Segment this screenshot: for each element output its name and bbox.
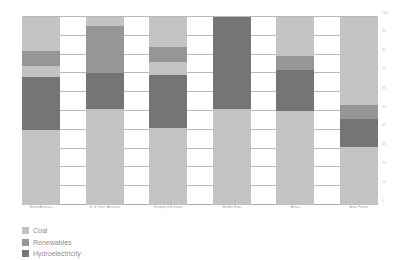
y-axis-tick-label: 60 <box>382 87 386 90</box>
bar-group[interactable] <box>86 17 124 205</box>
x-axis-tick-label: Middle East <box>213 206 251 216</box>
bar-segment[interactable] <box>22 130 60 205</box>
y-axis-tick-label: 20 <box>382 162 386 165</box>
y-axis-tick-label: 50 <box>382 106 386 109</box>
bar-group[interactable] <box>340 17 378 205</box>
bar-segment[interactable] <box>340 119 378 147</box>
y-axis-tick-label: 90 <box>382 31 386 34</box>
bar-series-container <box>22 17 378 205</box>
bar-group[interactable] <box>22 17 60 205</box>
x-axis-tick-labels: North AmericaS. & Cent. AmericaEurope & … <box>22 206 378 216</box>
bar-group[interactable] <box>149 17 187 205</box>
x-axis-tick-label: North America <box>22 206 60 216</box>
x-axis-tick-label: Europe & Eurasia <box>149 206 187 216</box>
bar-segment[interactable] <box>86 109 124 205</box>
bar-stack <box>86 17 124 205</box>
bar-segment[interactable] <box>340 17 378 105</box>
y-axis-tick-label: 0 <box>382 200 384 203</box>
bar-segment[interactable] <box>86 26 124 73</box>
legend-item[interactable]: Coal <box>22 226 81 235</box>
bar-segment[interactable] <box>340 147 378 205</box>
bar-stack <box>340 17 378 205</box>
bar-segment[interactable] <box>86 73 124 109</box>
bar-segment[interactable] <box>22 17 60 51</box>
bar-segment[interactable] <box>149 17 187 47</box>
chart-legend: CoalRenewablesHydroelectricity <box>22 226 81 258</box>
legend-label: Hydroelectricity <box>33 250 81 257</box>
bar-segment[interactable] <box>149 62 187 75</box>
bar-segment[interactable] <box>22 66 60 77</box>
y-axis-tick-label: 70 <box>382 68 386 71</box>
y-axis-tick-label: 30 <box>382 144 386 147</box>
y-axis-tick-labels: 0102030405060708090100 <box>380 17 404 205</box>
bar-group[interactable] <box>213 17 251 205</box>
bar-stack <box>213 17 251 205</box>
bar-segment[interactable] <box>276 70 314 111</box>
stacked-bar-chart: 0102030405060708090100 North AmericaS. &… <box>0 0 404 260</box>
plot-area <box>22 17 378 205</box>
legend-swatch-icon <box>22 250 29 257</box>
y-axis-tick-label: 100 <box>382 12 388 15</box>
x-axis-tick-label: Asia Pacific <box>340 206 378 216</box>
bar-segment[interactable] <box>276 111 314 205</box>
bar-segment[interactable] <box>276 56 314 69</box>
legend-swatch-icon <box>22 227 29 234</box>
legend-item[interactable]: Hydroelectricity <box>22 249 81 258</box>
x-axis-tick-label: Africa <box>276 206 314 216</box>
bar-segment[interactable] <box>149 75 187 128</box>
bar-segment[interactable] <box>213 17 251 109</box>
legend-item[interactable]: Renewables <box>22 238 81 247</box>
bar-segment[interactable] <box>22 51 60 66</box>
bar-stack <box>22 17 60 205</box>
bar-segment[interactable] <box>22 77 60 130</box>
y-axis-tick-label: 40 <box>382 125 386 128</box>
bar-stack <box>149 17 187 205</box>
y-axis-tick-label: 80 <box>382 50 386 53</box>
bar-segment[interactable] <box>149 128 187 205</box>
legend-label: Coal <box>33 227 47 234</box>
bar-segment[interactable] <box>276 17 314 56</box>
bar-segment[interactable] <box>213 109 251 205</box>
legend-swatch-icon <box>22 239 29 246</box>
legend-label: Renewables <box>33 239 72 246</box>
bar-segment[interactable] <box>86 17 124 26</box>
bar-segment[interactable] <box>340 105 378 118</box>
y-axis-tick-label: 10 <box>382 181 386 184</box>
x-axis-tick-label: S. & Cent. America <box>86 206 124 216</box>
bar-group[interactable] <box>276 17 314 205</box>
bar-stack <box>276 17 314 205</box>
bar-segment[interactable] <box>149 47 187 62</box>
